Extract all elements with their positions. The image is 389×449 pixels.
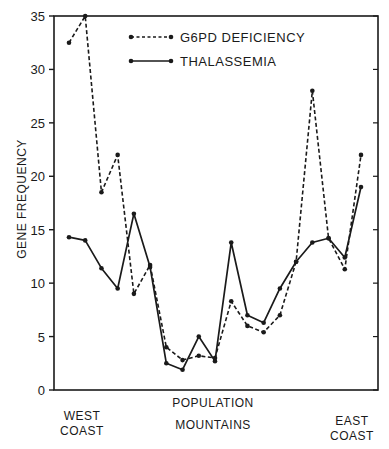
data-point (196, 354, 201, 359)
east-coast-label: EAST COAST (322, 414, 382, 444)
plot-border (54, 16, 378, 390)
data-point (310, 89, 315, 94)
data-point (261, 330, 266, 335)
data-point (245, 324, 250, 329)
data-point (294, 259, 299, 264)
data-point (342, 255, 347, 260)
west-coast-line1: WEST (52, 409, 112, 424)
data-point (99, 266, 104, 271)
legend-marker (169, 59, 174, 64)
legend: G6PD DEFICIENCYTHALASSEMIA (129, 30, 306, 69)
x-axis-label: POPULATION (158, 396, 268, 411)
line-chart: 05101520253035 G6PD DEFICIENCYTHALASSEMI… (0, 0, 389, 449)
thalassemia-line (69, 187, 361, 370)
west-coast-line2: COAST (52, 424, 112, 439)
data-point (310, 240, 315, 245)
data-point (115, 153, 120, 158)
data-point (67, 235, 72, 240)
mountains-label: MOUNTAINS (158, 418, 268, 433)
west-coast-label: WEST COAST (52, 409, 112, 439)
data-point (196, 334, 201, 339)
y-tick-label: 30 (31, 62, 45, 77)
data-point (342, 267, 347, 272)
data-point (229, 299, 234, 304)
data-point (164, 361, 169, 366)
data-point (83, 14, 88, 19)
data-point (278, 286, 283, 291)
data-point (115, 286, 120, 291)
east-coast-line2: COAST (322, 429, 382, 444)
y-tick-label: 25 (31, 116, 45, 131)
y-tick-label: 5 (38, 330, 45, 345)
data-point (213, 359, 218, 364)
data-point (148, 265, 153, 270)
y-tick-label: 20 (31, 169, 45, 184)
data-point (180, 367, 185, 372)
legend-g6pd-label: G6PD DEFICIENCY (180, 30, 305, 45)
y-tick-label: 35 (31, 9, 45, 24)
y-tick-label: 0 (38, 383, 45, 398)
y-axis-label: GENE FREQUENCY (15, 139, 29, 259)
data-point (245, 313, 250, 318)
y-tick-label: 15 (31, 223, 45, 238)
data-point (326, 236, 331, 241)
data-point (83, 238, 88, 243)
data-point (132, 211, 137, 216)
data-point (99, 190, 104, 195)
data-point (180, 358, 185, 363)
legend-marker (129, 59, 134, 64)
data-point (278, 313, 283, 318)
data-point (229, 240, 234, 245)
legend-marker (129, 35, 134, 40)
data-point (359, 185, 364, 190)
legend-marker (169, 35, 174, 40)
data-point (132, 292, 137, 297)
plot-frame (54, 16, 378, 390)
data-point (359, 153, 364, 158)
east-coast-line1: EAST (322, 414, 382, 429)
legend-thalassemia-label: THALASSEMIA (180, 54, 277, 69)
data-point (67, 40, 72, 45)
data-point (261, 320, 266, 325)
y-tick-label: 10 (31, 276, 45, 291)
